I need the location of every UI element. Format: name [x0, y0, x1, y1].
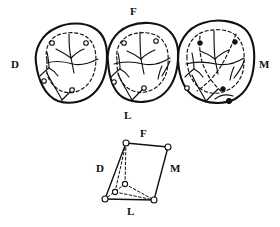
- tooth-right-cusp-marker-4: [221, 87, 226, 92]
- tooth-left-cusp-ridge-b: [71, 49, 84, 58]
- figure-root: F D M L F D M L: [0, 0, 280, 227]
- tooth-middle-cusp-ridge-b: [141, 50, 155, 59]
- tooth-right-distal-groove: [192, 53, 194, 69]
- tooth-middle-mesial-ridge: [158, 66, 162, 79]
- tooth-middle-cusp-marker-4: [142, 86, 147, 91]
- tooth-right-lingual-groove-2: [206, 89, 218, 101]
- top-label-lingual: L: [124, 110, 132, 121]
- top-label-distal: D: [11, 59, 19, 70]
- tooth-middle-cusp-ridge-a: [127, 51, 141, 59]
- cusp-quadrilateral-diagram: [102, 140, 171, 203]
- tooth-right: [178, 21, 254, 104]
- quad-edge-facial: [126, 143, 168, 147]
- tooth-right-mesial-groove: [234, 61, 244, 78]
- vertex-facial-distal: [123, 140, 129, 146]
- vertex-lingual-distal: [102, 196, 108, 202]
- tooth-middle-cusp-ridge-c: [141, 59, 144, 74]
- quad-label-distal: D: [96, 163, 104, 174]
- figure-canvas: [0, 0, 280, 227]
- tooth-right-cusp-ridge-a: [200, 51, 215, 59]
- vertex-lingual-mesial: [151, 197, 157, 203]
- quad-edge-lingual: [105, 199, 154, 200]
- tooth-left-cusp-marker-4: [70, 88, 75, 93]
- tooth-left-facial-groove: [69, 34, 71, 58]
- quad-label-lingual: L: [127, 206, 135, 217]
- quad-diagonal-interior-to-lingual-mesial: [125, 184, 154, 200]
- tooth-right-cusp-marker-1: [198, 41, 203, 46]
- top-label-facial: F: [130, 6, 137, 17]
- tooth-left-cusp-marker-3: [42, 79, 47, 84]
- tooth-right-facial-groove: [214, 31, 215, 59]
- tooth-right-distal-ridge-b: [194, 69, 203, 77]
- tooth-left-cusp-marker-1: [50, 41, 55, 46]
- tooth-left-cusp-ridge-c: [71, 58, 74, 73]
- tooth-middle-cusp-marker-1: [122, 41, 127, 46]
- tooth-left-distal-ridge-b: [49, 68, 58, 76]
- tooth-left-cusp-marker-2: [84, 41, 89, 46]
- vertex-facial-mesial: [165, 144, 171, 150]
- tooth-left-cusp-ridge-a: [56, 49, 71, 58]
- tooth-right-cusp-marker-5: [226, 98, 231, 103]
- quad-label-facial: F: [140, 128, 147, 139]
- tooth-left: [36, 24, 107, 103]
- tooth-right-cusp-marker-2: [233, 40, 238, 45]
- quad-edge-mesial: [154, 147, 168, 200]
- top-label-mesial: M: [259, 59, 270, 70]
- quad-diagonal-apex-to-interior: [125, 143, 126, 184]
- tooth-middle-cusp-marker-3: [112, 80, 117, 85]
- tooth-middle-distal-groove: [118, 53, 120, 69]
- tooth-right-mesial-ridge: [230, 67, 234, 80]
- tooth-right-cusp-marker-3: [185, 86, 190, 91]
- vertex-interior-cusp: [112, 189, 117, 194]
- tooth-middle-cusp-marker-2: [154, 39, 159, 44]
- vertex-interior-apex: [122, 181, 127, 186]
- tooth-middle: [108, 23, 178, 102]
- tooth-middle-facial-groove: [140, 32, 141, 59]
- quad-label-mesial: M: [170, 163, 181, 174]
- tooth-right-cusp-ridge-b: [215, 50, 229, 59]
- tooth-middle-distal-ridge-b: [120, 69, 129, 77]
